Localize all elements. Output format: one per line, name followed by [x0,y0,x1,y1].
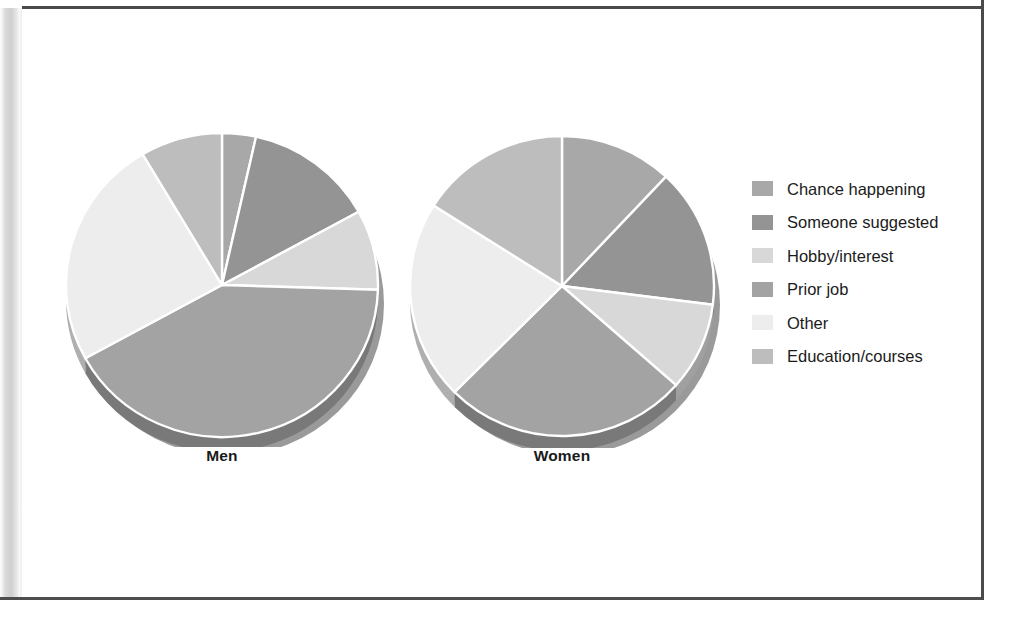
legend-swatch-icon [752,248,773,263]
legend-item: Chance happening [752,172,992,206]
legend-item-label: Someone suggested [787,214,938,231]
pie-caption-men: Men [44,447,400,465]
legend-item: Other [752,306,992,340]
pie-top-face [410,136,714,436]
chart-legend: Chance happeningSomeone suggestedHobby/i… [752,172,992,373]
pie-chart-men [44,121,400,447]
legend-item-label: Education/courses [787,348,923,365]
legend-item: Prior job [752,273,992,307]
legend-item: Hobby/interest [752,239,992,273]
legend-swatch-icon [752,349,773,364]
legend-item-label: Hobby/interest [787,248,893,265]
page-bottom-border [0,597,983,600]
page-left-edge [0,8,20,598]
pie-svg [44,121,400,447]
legend-swatch-icon [752,181,773,196]
legend-item-label: Other [787,315,828,332]
pie-caption-women: Women [384,447,740,465]
legend-swatch-icon [752,315,773,330]
legend-swatch-icon [752,282,773,297]
chart-area: Men Women Chance happeningSomeone sugges… [22,9,981,597]
legend-item-label: Chance happening [787,181,926,198]
legend-item: Someone suggested [752,206,992,240]
pie-top-face [66,133,378,437]
legend-item: Education/courses [752,340,992,374]
legend-swatch-icon [752,215,773,230]
pie-chart-women [384,122,740,448]
legend-item-label: Prior job [787,281,848,298]
pie-svg [384,122,740,448]
